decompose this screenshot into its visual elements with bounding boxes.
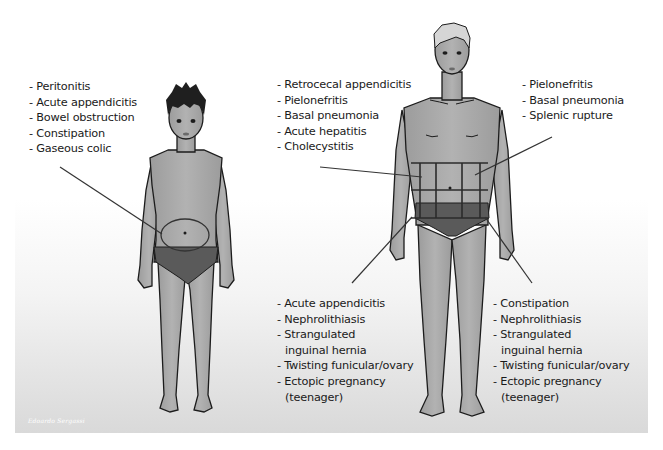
condition-item: - Strangulated (277, 327, 413, 343)
condition-item: - Acute hepatitis (277, 124, 411, 140)
condition-item: - Cholecystitis (277, 139, 411, 155)
condition-item: - Constipation (493, 296, 629, 312)
condition-item: - Peritonitis (29, 79, 137, 95)
condition-item: - Basal pneumonia (277, 108, 411, 124)
adult-right-leg (418, 225, 452, 416)
adult-left-leg (452, 225, 486, 416)
condition-item-continued: (teenager) (493, 390, 629, 406)
condition-item-continued: (teenager) (277, 390, 413, 406)
condition-item: - Strangulated (493, 327, 629, 343)
condition-item: - Gaseous colic (29, 141, 137, 157)
condition-item: - Bowel obstruction (29, 110, 137, 126)
condition-item: - Pielonefritis (277, 93, 411, 109)
condition-item: - Ectopic pregnancy (493, 374, 629, 390)
child-torso (150, 150, 222, 262)
adult-right-lower-conditions-list: - Acute appendicitis - Nephrolithiasis -… (277, 296, 413, 405)
condition-item: - Twisting funicular/ovary (493, 358, 629, 374)
condition-item-continued: inguinal hernia (277, 343, 413, 359)
artist-signature: Edoardo Sergassi (28, 417, 85, 424)
child-conditions-list: - Peritonitis - Acute appendicitis - Bow… (29, 79, 137, 157)
adult-right-upper-conditions-list: - Retrocecal appendicitis - Pielonefriti… (277, 77, 411, 155)
adult-left-lower-conditions-list: - Constipation - Nephrolithiasis - Stran… (493, 296, 629, 405)
condition-item: - Acute appendicitis (277, 296, 413, 312)
condition-item: - Ectopic pregnancy (277, 374, 413, 390)
condition-item: - Nephrolithiasis (277, 312, 413, 328)
condition-item: - Retrocecal appendicitis (277, 77, 411, 93)
adult-neck (442, 72, 462, 100)
condition-item-continued: inguinal hernia (493, 343, 629, 359)
condition-item: - Acute appendicitis (29, 95, 137, 111)
condition-item: - Nephrolithiasis (493, 312, 629, 328)
child-right-leg (186, 262, 214, 412)
condition-item: - Splenic rupture (522, 108, 624, 124)
condition-item: - Basal pneumonia (522, 93, 624, 109)
child-left-leg (158, 262, 186, 412)
condition-item: - Twisting funicular/ovary (277, 358, 413, 374)
condition-item: - Pielonefritis (522, 77, 624, 93)
adult-left-upper-conditions-list: - Pielonefritis - Basal pneumonia - Sple… (522, 77, 624, 124)
condition-item: - Constipation (29, 126, 137, 142)
